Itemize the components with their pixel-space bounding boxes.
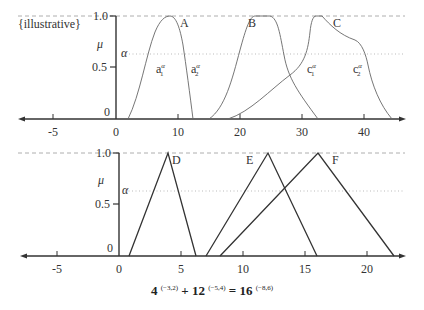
figure-canvas: {illustrative} 1.0 0.5 0 μ α -5 0 10 20 … — [0, 0, 424, 310]
bottom-x-tick: 5 — [178, 262, 184, 276]
left-arrow-icon — [20, 254, 27, 259]
bottom-x-tick: 20 — [361, 262, 373, 276]
bottom-tick-05: 0.5 — [95, 197, 110, 211]
triangle-F — [220, 153, 394, 256]
top-tick-0: 0 — [104, 105, 110, 119]
sum-equation: 4 (−3,2) + 12 (−5,4) = 16 (−8,6) — [0, 283, 424, 299]
label-A: A — [180, 16, 189, 30]
bottom-tick-1: 1.0 — [96, 146, 111, 160]
label-B: B — [248, 16, 256, 30]
top-x-tick: 20 — [234, 125, 246, 139]
bottom-tick-0: 0 — [107, 241, 113, 255]
right-arrow-icon — [399, 117, 406, 122]
triangle-D — [129, 153, 196, 256]
bottom-x-tick: 10 — [237, 262, 249, 276]
label-E: E — [246, 153, 253, 167]
top-mu-label: μ — [96, 37, 103, 51]
top-x-tick: 40 — [358, 125, 370, 139]
left-arrow-icon — [18, 117, 25, 122]
top-x-tick: 30 — [296, 125, 308, 139]
top-tick-05: 0.5 — [92, 60, 107, 74]
top-tick-1: 1.0 — [93, 9, 108, 23]
label-c2: cα2 — [353, 62, 362, 78]
curve-B — [209, 16, 318, 119]
top-panel — [18, 16, 406, 122]
bottom-alpha-label: α — [122, 183, 129, 197]
bottom-x-tick: 15 — [299, 262, 311, 276]
illustrative-tag: {illustrative} — [18, 17, 81, 31]
label-C: C — [333, 16, 341, 30]
top-alpha-label: α — [121, 46, 128, 60]
label-a2: aα2 — [191, 62, 200, 78]
top-x-tick: 0 — [113, 125, 119, 139]
right-arrow-icon — [399, 254, 406, 259]
bottom-x-tick: 0 — [116, 262, 122, 276]
triangle-E — [206, 153, 317, 256]
label-c1: cα1 — [307, 62, 316, 78]
label-D: D — [172, 153, 181, 167]
label-F: F — [332, 153, 339, 167]
label-a1: aα1 — [156, 62, 165, 78]
bottom-mu-label: μ — [97, 173, 104, 187]
top-x-tick: -5 — [48, 125, 58, 139]
bottom-x-tick: -5 — [52, 262, 62, 276]
bottom-panel — [18, 153, 406, 259]
top-x-tick: 10 — [172, 125, 184, 139]
